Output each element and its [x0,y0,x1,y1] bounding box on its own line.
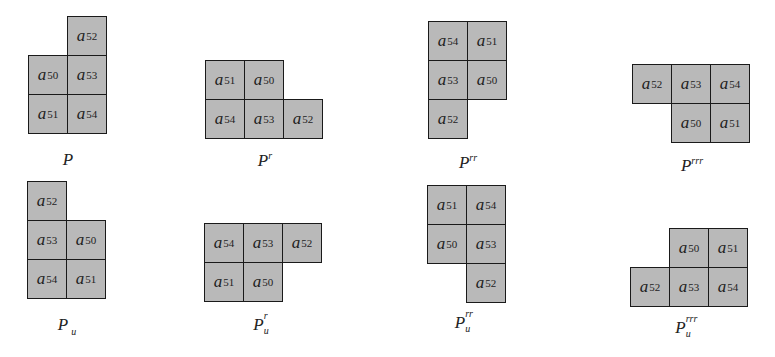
cell-index: 53 [447,74,458,86]
caption-superscript: rr [465,308,473,319]
cell-index: 52 [46,195,57,207]
cell-index: 52 [485,277,496,289]
cell-index: 50 [262,276,273,288]
cell-index: 52 [447,113,458,125]
grid-cell-a50: a50 [66,220,106,260]
panel-caption: Prru [455,313,479,333]
cell-variable: a [253,233,262,253]
grid-cell-a51: a51 [205,60,245,100]
grid-cell-a52: a52 [630,267,670,307]
grid-cell-a53: a53 [669,267,709,307]
grid-cell-a52: a52 [283,99,323,139]
grid-cell-a54: a54 [710,64,750,104]
cell-index: 51 [224,74,235,86]
cell-variable: a [292,233,301,253]
grid-cell-a53: a53 [67,55,107,95]
caption-base: P [58,315,68,334]
cell-variable: a [77,65,86,85]
cell-index: 51 [446,199,457,211]
cell-variable: a [254,70,263,90]
cell-variable: a [681,74,690,94]
caption-base: P [253,315,263,334]
grid-cell-a54: a54 [428,21,468,61]
cell-variable: a [77,26,86,46]
cell-index: 54 [485,199,496,211]
cell-variable: a [37,191,46,211]
cell-index: 53 [86,69,97,81]
grid-cell-a52: a52 [282,223,322,263]
cell-variable: a [37,230,46,250]
cell-index: 53 [690,78,701,90]
cell-variable: a [476,195,485,215]
caption-base: P [675,318,685,337]
cell-index: 54 [447,35,458,47]
caption-superscript: rr [469,152,477,163]
panel-caption: Pu [58,315,76,337]
cell-index: 54 [223,237,234,249]
cell-variable: a [640,277,649,297]
cell-index: 50 [263,74,274,86]
grid-cell-a50: a50 [244,60,284,100]
cell-index: 50 [690,117,701,129]
cell-variable: a [254,109,263,129]
grid-cell-a54: a54 [27,259,67,299]
cell-variable: a [679,277,688,297]
grid-cell-a52: a52 [428,99,468,139]
cell-index: 51 [729,117,740,129]
grid-cell-a54: a54 [466,185,506,225]
cell-index: 54 [86,108,97,120]
cell-variable: a [253,272,262,292]
cell-index: 53 [485,238,496,250]
grid-cell-a50: a50 [467,60,507,100]
cell-variable: a [438,70,447,90]
grid-cell-a53: a53 [27,220,67,260]
cell-variable: a [720,113,729,133]
cell-variable: a [679,238,688,258]
cell-index: 50 [85,234,96,246]
cell-variable: a [38,65,47,85]
cell-variable: a [293,109,302,129]
grid-cell-a50: a50 [427,224,467,264]
cell-variable: a [477,70,486,90]
cell-index: 54 [729,78,740,90]
cell-variable: a [437,195,446,215]
grid-cell-a51: a51 [427,185,467,225]
grid-cell-a52: a52 [466,263,506,303]
cell-variable: a [214,233,223,253]
cell-index: 54 [727,281,738,293]
cell-index: 51 [223,276,234,288]
cell-variable: a [76,269,85,289]
caption-superscript: rrr [686,313,698,324]
caption-subscript: u [264,325,269,336]
cell-variable: a [718,238,727,258]
grid-cell-a51: a51 [708,228,748,268]
cell-variable: a [477,31,486,51]
caption-superscript: rrr [691,155,703,166]
grid-cell-a53: a53 [428,60,468,100]
panel-caption: Prrru [675,318,704,338]
panel-caption: P [63,150,73,170]
grid-cell-a50: a50 [28,55,68,95]
grid-cell-a52: a52 [27,181,67,221]
cell-index: 52 [651,78,662,90]
grid-cell-a52: a52 [67,16,107,56]
cell-index: 50 [486,74,497,86]
cell-variable: a [37,269,46,289]
panel-caption: Prr [459,152,477,173]
cell-variable: a [718,277,727,297]
caption-superscript: r [268,150,272,161]
grid-cell-a51: a51 [467,21,507,61]
cell-index: 51 [486,35,497,47]
caption-base: P [681,156,691,175]
cell-variable: a [215,70,224,90]
cell-variable: a [38,104,47,124]
cell-index: 52 [649,281,660,293]
cell-variable: a [438,109,447,129]
grid-cell-a54: a54 [204,223,244,263]
cell-variable: a [215,109,224,129]
cell-index: 53 [262,237,273,249]
grid-cell-a51: a51 [28,94,68,134]
grid-cell-a54: a54 [67,94,107,134]
cell-index: 52 [302,113,313,125]
cell-variable: a [476,234,485,254]
